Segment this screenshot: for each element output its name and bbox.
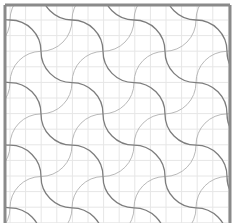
light-arc: [72, 177, 103, 208]
light-arc: [165, 208, 196, 223]
light-arc: [196, 0, 227, 20]
dark-arc: [165, 177, 196, 208]
light-arc: [134, 0, 165, 20]
light-arc: [196, 177, 227, 208]
light-arc: [134, 177, 165, 208]
quilt-pattern-canvas: [0, 0, 234, 223]
dark-curves: [0, 0, 234, 223]
dark-arc: [165, 0, 196, 20]
dark-arc: [196, 208, 227, 223]
dark-arc: [103, 177, 134, 208]
light-arc: [103, 208, 134, 223]
light-arc: [72, 0, 103, 20]
dark-arc: [103, 0, 134, 20]
dark-arc: [134, 208, 165, 223]
